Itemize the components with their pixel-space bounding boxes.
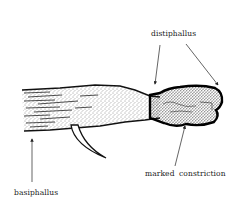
arrow-marked-constriction: [175, 126, 185, 166]
basiphallus-shape: [22, 85, 160, 131]
arrow-distiphallus-right: [186, 44, 218, 85]
label-basiphallus: basiphallus: [14, 188, 58, 197]
phallus-diagram: distiphallus marked constriction basipha…: [0, 0, 239, 212]
hook-spine: [71, 125, 106, 158]
label-distiphallus: distiphallus: [151, 29, 196, 38]
arrow-distiphallus-left: [155, 45, 160, 84]
diagram-drawing: [0, 0, 239, 212]
label-marked-constriction: marked constriction: [145, 169, 226, 178]
distiphallus-shape: [150, 86, 222, 126]
